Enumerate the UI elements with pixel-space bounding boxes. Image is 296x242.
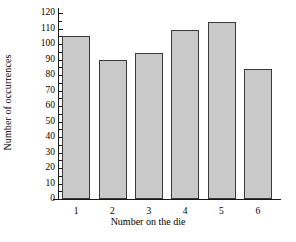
bar-chart-figure: Number of occurrences 010203040506070809… bbox=[0, 0, 296, 242]
x-axis-line bbox=[53, 199, 281, 200]
y-axis-tick-label: 30 bbox=[29, 147, 55, 158]
y-axis-tick-label: 100 bbox=[29, 38, 55, 49]
bar bbox=[208, 22, 236, 199]
y-axis-tick-label: 60 bbox=[29, 100, 55, 111]
bar bbox=[62, 36, 90, 199]
y-axis-tick-label: 120 bbox=[29, 7, 55, 18]
y-axis-title-text: Number of occurrences bbox=[3, 55, 14, 151]
bar bbox=[135, 53, 163, 199]
y-axis-title: Number of occurrences bbox=[0, 0, 16, 205]
y-axis-tick: 0 bbox=[59, 199, 63, 200]
bar bbox=[99, 60, 127, 200]
y-axis-tick-label: 20 bbox=[29, 162, 55, 173]
x-axis-title: Number on the die bbox=[0, 216, 296, 227]
y-axis-tick-label: 40 bbox=[29, 131, 55, 142]
y-axis-tick-label: 10 bbox=[29, 178, 55, 189]
y-axis-tick-label: 70 bbox=[29, 85, 55, 96]
bar bbox=[171, 30, 199, 199]
y-axis-tick-label: 0 bbox=[29, 193, 55, 204]
y-axis-minor-tick bbox=[59, 21, 62, 22]
bar bbox=[244, 69, 272, 199]
y-axis-tick-label: 110 bbox=[29, 23, 55, 34]
y-axis-tick-label: 50 bbox=[29, 116, 55, 127]
y-axis-tick: 110 bbox=[59, 29, 63, 30]
plot-area: 0102030405060708090100110120 123456 bbox=[58, 13, 276, 199]
y-axis-tick-label: 90 bbox=[29, 54, 55, 65]
y-axis-tick: 120 bbox=[59, 13, 63, 14]
y-axis-tick-label: 80 bbox=[29, 69, 55, 80]
